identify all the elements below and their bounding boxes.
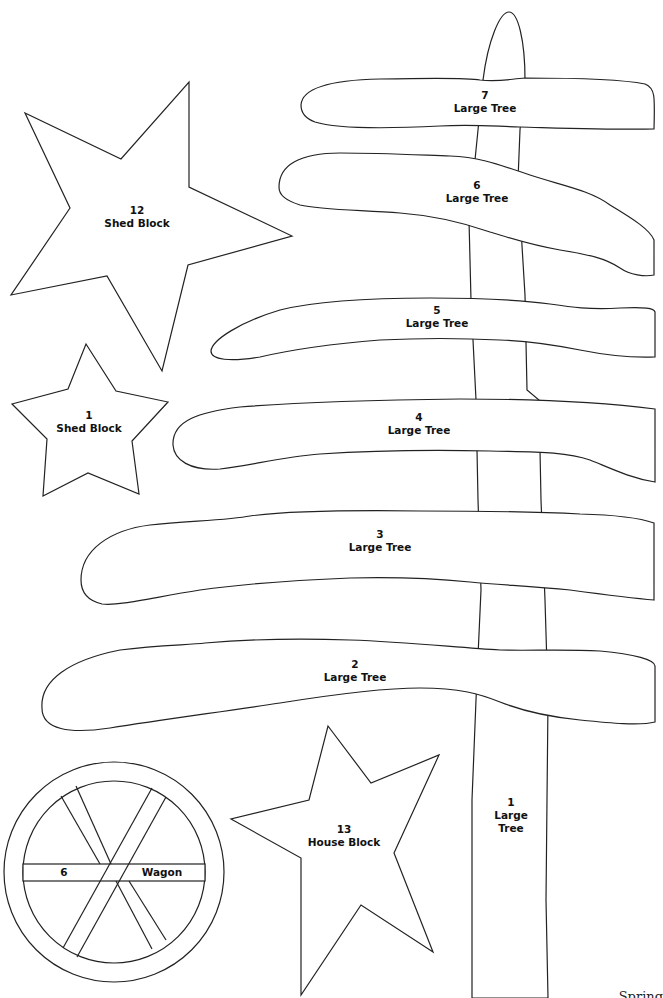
tree-piece-1-label: 1 Large Tree [494, 796, 528, 835]
piece-name: Large Tree [349, 541, 412, 554]
pattern-sheet: 7 Large Tree 6 Large Tree 5 Large Tree 4… [0, 0, 663, 998]
piece-name: House Block [308, 836, 381, 849]
star-piece-12-label: 12 Shed Block [104, 204, 169, 230]
piece-number: 4 [388, 411, 451, 424]
tree-piece-3 [81, 511, 654, 605]
tree-piece-2-label: 2 Large Tree [324, 658, 387, 684]
star-piece-1-label: 1 Shed Block [56, 409, 121, 435]
piece-name-line1: Large [494, 809, 528, 822]
piece-number: 13 [308, 823, 381, 836]
tree-piece-3-label: 3 Large Tree [349, 528, 412, 554]
corner-text: Spring [619, 989, 663, 998]
wagon-piece-number: 6 [60, 866, 67, 879]
tree-piece-2 [42, 639, 655, 730]
tree-piece-4-label: 4 Large Tree [388, 411, 451, 437]
tree-piece-6-label: 6 Large Tree [446, 179, 509, 205]
wagon-piece-name: Wagon [142, 866, 183, 879]
piece-number: 1 [494, 796, 528, 809]
piece-number: 6 [446, 179, 509, 192]
tree-piece-6 [279, 153, 654, 276]
piece-number: 6 [60, 866, 67, 879]
piece-name: Large Tree [454, 102, 517, 115]
piece-name: Large Tree [446, 192, 509, 205]
tree-piece-7-label: 7 Large Tree [454, 89, 517, 115]
piece-number: 2 [324, 658, 387, 671]
piece-name: Wagon [142, 866, 183, 879]
piece-name: Large Tree [406, 317, 469, 330]
piece-number: 7 [454, 89, 517, 102]
piece-name: Shed Block [56, 422, 121, 435]
piece-number: 12 [104, 204, 169, 217]
star-piece-13 [231, 726, 439, 995]
wagon-wheel-piece [4, 762, 224, 982]
piece-name: Large Tree [324, 671, 387, 684]
piece-name: Shed Block [104, 217, 169, 230]
piece-name-line2: Tree [494, 822, 528, 835]
piece-number: 5 [406, 304, 469, 317]
piece-number: 3 [349, 528, 412, 541]
tree-piece-5-label: 5 Large Tree [406, 304, 469, 330]
star-piece-13-label: 13 House Block [308, 823, 381, 849]
piece-number: 1 [56, 409, 121, 422]
piece-name: Large Tree [388, 424, 451, 437]
